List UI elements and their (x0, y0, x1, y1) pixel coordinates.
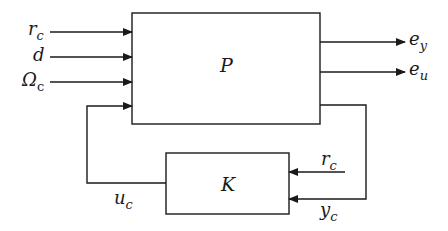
label-input-rc-base: r (28, 18, 37, 39)
label-output-eu: eu (409, 60, 428, 82)
label-input-rc-sub: c (37, 28, 44, 43)
label-output-ey: ey (409, 30, 427, 52)
label-P-text: P (220, 54, 233, 76)
label-controller-rc: rc (321, 150, 337, 172)
label-controller-uc-sub: c (126, 197, 133, 212)
label-input-d-base: d (33, 44, 45, 65)
label-K-text: K (221, 173, 235, 195)
label-controller-rc-sub: c (330, 158, 337, 173)
label-input-d: d (33, 46, 45, 68)
label-input-omega-base: Ω (22, 69, 37, 90)
label-controller-uc-base: u (114, 187, 126, 208)
label-output-ey-base: e (409, 28, 420, 49)
feedback-uc-path (87, 106, 166, 183)
label-controller-yc: yc (320, 201, 337, 223)
label-controller-rc-base: r (321, 148, 330, 169)
label-controller-uc: uc (114, 189, 133, 211)
label-controller-yc-base: y (320, 199, 330, 220)
label-input-omega-sub: c (37, 79, 44, 94)
label-output-eu-sub: u (420, 68, 428, 83)
label-input-rc: rc (28, 20, 44, 42)
diagram-lines (0, 0, 448, 231)
block-diagram: P K rc d Ωc ey eu rc yc uc (0, 0, 448, 231)
label-output-eu-base: e (409, 58, 420, 79)
label-P: P (220, 56, 233, 75)
label-input-omega: Ωc (22, 71, 44, 93)
label-output-ey-sub: y (420, 38, 427, 53)
label-controller-yc-sub: c (330, 209, 337, 224)
label-K: K (221, 175, 235, 194)
